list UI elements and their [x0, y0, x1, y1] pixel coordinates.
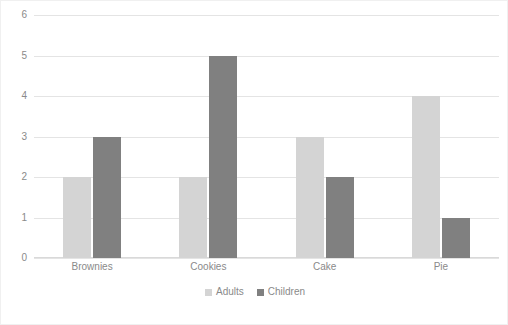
- x-axis-label-cookies: Cookies: [190, 260, 226, 274]
- plot-area: [34, 15, 499, 258]
- x-axis-label-cake: Cake: [313, 260, 336, 274]
- y-axis-tick-label: 2: [21, 172, 27, 182]
- legend-swatch-icon: [257, 289, 264, 296]
- y-axis-tick-label: 6: [21, 10, 27, 20]
- bar-group: [179, 15, 237, 258]
- x-axis-label-brownies: Brownies: [72, 260, 113, 274]
- legend-swatch-icon: [205, 289, 212, 296]
- bar-cake-children[interactable]: [326, 177, 354, 258]
- chart-legend: AdultsChildren: [1, 287, 508, 297]
- y-axis-tick-label: 1: [21, 213, 27, 223]
- y-axis-tick-label: 0: [21, 253, 27, 263]
- bar-cake-adults[interactable]: [296, 137, 324, 259]
- bar-pie-adults[interactable]: [412, 96, 440, 258]
- y-axis: 0123456: [1, 1, 34, 272]
- bar-group: [63, 15, 121, 258]
- bar-group: [412, 15, 470, 258]
- legend-item-children[interactable]: Children: [257, 287, 305, 297]
- bar-cookies-children[interactable]: [209, 56, 237, 259]
- x-axis-label-pie: Pie: [434, 260, 448, 274]
- y-axis-tick-label: 4: [21, 91, 27, 101]
- bar-brownies-children[interactable]: [93, 137, 121, 259]
- bar-brownies-adults[interactable]: [63, 177, 91, 258]
- y-axis-tick-label: 5: [21, 51, 27, 61]
- bar-chart: 0123456 BrowniesCookiesCakePie AdultsChi…: [0, 0, 508, 325]
- gridline: [34, 258, 499, 259]
- legend-item-adults[interactable]: Adults: [205, 287, 244, 297]
- y-axis-tick-label: 3: [21, 132, 27, 142]
- bar-pie-children[interactable]: [442, 218, 470, 259]
- legend-label: Children: [268, 287, 305, 297]
- x-axis-labels: BrowniesCookiesCakePie: [34, 260, 499, 278]
- bar-cookies-adults[interactable]: [179, 177, 207, 258]
- bar-group: [296, 15, 354, 258]
- legend-label: Adults: [216, 287, 244, 297]
